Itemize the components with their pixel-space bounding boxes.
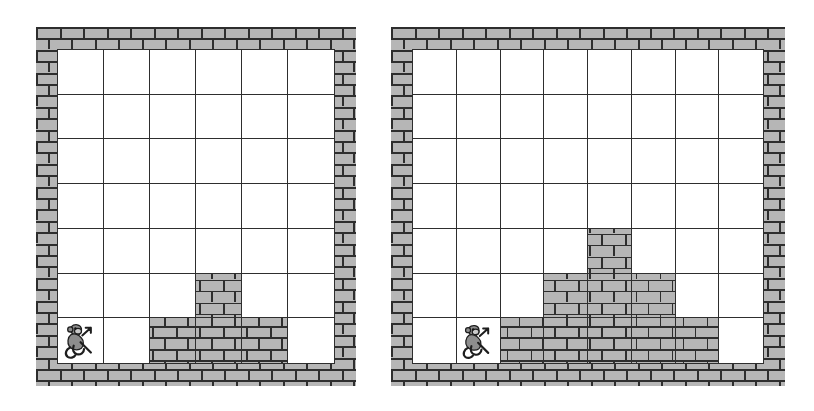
grid-cell-empty[interactable] <box>413 318 457 363</box>
grid-cell-empty[interactable] <box>632 229 676 274</box>
grid-cell-empty[interactable] <box>457 139 501 184</box>
grid-cell-brick[interactable] <box>150 318 196 363</box>
grid-cell-empty[interactable] <box>288 50 334 95</box>
grid-cell-empty[interactable] <box>58 274 104 319</box>
grid-cell-empty[interactable] <box>501 95 545 140</box>
grid-cell-empty[interactable] <box>501 139 545 184</box>
grid-cell-empty[interactable] <box>457 184 501 229</box>
grid-cell-empty[interactable] <box>288 229 334 274</box>
grid-cell-empty[interactable] <box>150 184 196 229</box>
grid-cell-empty[interactable] <box>58 229 104 274</box>
grid-cell-brick[interactable] <box>501 318 545 363</box>
grid-cell-empty[interactable] <box>196 50 242 95</box>
grid-cell-empty[interactable] <box>242 274 288 319</box>
grid-cell-empty[interactable] <box>632 95 676 140</box>
grid-cell-empty[interactable] <box>150 50 196 95</box>
grid-cell-empty[interactable] <box>544 184 588 229</box>
left-grid-world[interactable] <box>36 27 356 386</box>
grid-cell-empty[interactable] <box>242 184 288 229</box>
grid-cell-empty[interactable] <box>104 274 150 319</box>
grid-area[interactable] <box>58 50 334 363</box>
grid-cell-empty[interactable] <box>413 184 457 229</box>
grid-cell-empty[interactable] <box>58 139 104 184</box>
grid-cell-empty[interactable] <box>676 50 720 95</box>
grid-cell-empty[interactable] <box>719 50 763 95</box>
grid-cell-empty[interactable] <box>288 274 334 319</box>
grid-cell-empty[interactable] <box>457 229 501 274</box>
grid-cell-empty[interactable] <box>501 184 545 229</box>
grid-cell-empty[interactable] <box>196 95 242 140</box>
grid-cell-agent[interactable] <box>58 318 104 363</box>
grid-cell-empty[interactable] <box>501 50 545 95</box>
grid-cell-empty[interactable] <box>413 50 457 95</box>
grid-cell-empty[interactable] <box>150 274 196 319</box>
grid-cell-empty[interactable] <box>632 139 676 184</box>
grid-cell-empty[interactable] <box>544 139 588 184</box>
grid-cell-empty[interactable] <box>104 50 150 95</box>
grid-cell-empty[interactable] <box>676 95 720 140</box>
grid-cell-empty[interactable] <box>288 95 334 140</box>
grid-cell-empty[interactable] <box>196 229 242 274</box>
grid-cell-empty[interactable] <box>719 95 763 140</box>
grid-cell-brick[interactable] <box>196 274 242 319</box>
grid-cell-empty[interactable] <box>719 274 763 319</box>
grid-cell-empty[interactable] <box>242 139 288 184</box>
grid-cell-empty[interactable] <box>104 95 150 140</box>
grid-cell-empty[interactable] <box>196 184 242 229</box>
grid-cell-empty[interactable] <box>242 95 288 140</box>
grid-cell-empty[interactable] <box>588 139 632 184</box>
grid-cell-empty[interactable] <box>632 184 676 229</box>
grid-cell-empty[interactable] <box>58 184 104 229</box>
grid-cell-brick[interactable] <box>588 229 632 274</box>
grid-cell-empty[interactable] <box>288 184 334 229</box>
grid-cell-empty[interactable] <box>544 95 588 140</box>
grid-cell-empty[interactable] <box>501 229 545 274</box>
grid-cell-empty[interactable] <box>413 95 457 140</box>
grid-cell-empty[interactable] <box>719 139 763 184</box>
grid-area[interactable] <box>413 50 763 363</box>
grid-cell-empty[interactable] <box>588 95 632 140</box>
grid-cell-empty[interactable] <box>588 50 632 95</box>
grid-cell-empty[interactable] <box>242 229 288 274</box>
grid-cell-empty[interactable] <box>242 50 288 95</box>
grid-cell-empty[interactable] <box>104 139 150 184</box>
grid-cell-empty[interactable] <box>150 139 196 184</box>
grid-cell-empty[interactable] <box>632 50 676 95</box>
grid-cell-empty[interactable] <box>719 184 763 229</box>
grid-cell-brick[interactable] <box>632 274 676 319</box>
grid-cell-empty[interactable] <box>288 318 334 363</box>
grid-cell-empty[interactable] <box>104 184 150 229</box>
grid-cell-empty[interactable] <box>196 139 242 184</box>
grid-cell-empty[interactable] <box>676 139 720 184</box>
grid-cell-empty[interactable] <box>104 318 150 363</box>
grid-cell-empty[interactable] <box>150 229 196 274</box>
grid-cell-brick[interactable] <box>676 318 720 363</box>
grid-cell-empty[interactable] <box>104 229 150 274</box>
grid-cell-empty[interactable] <box>413 274 457 319</box>
grid-cell-empty[interactable] <box>413 139 457 184</box>
grid-cell-empty[interactable] <box>413 229 457 274</box>
grid-cell-brick[interactable] <box>544 318 588 363</box>
grid-cell-empty[interactable] <box>544 50 588 95</box>
grid-cell-brick[interactable] <box>544 274 588 319</box>
grid-cell-empty[interactable] <box>501 274 545 319</box>
agent-monkey[interactable] <box>457 318 500 363</box>
grid-cell-empty[interactable] <box>544 229 588 274</box>
grid-cell-brick[interactable] <box>632 318 676 363</box>
grid-cell-brick[interactable] <box>242 318 288 363</box>
grid-cell-empty[interactable] <box>588 184 632 229</box>
grid-cell-agent[interactable] <box>457 318 501 363</box>
grid-cell-brick[interactable] <box>196 318 242 363</box>
grid-cell-empty[interactable] <box>719 229 763 274</box>
grid-cell-empty[interactable] <box>676 274 720 319</box>
grid-cell-empty[interactable] <box>457 50 501 95</box>
grid-cell-empty[interactable] <box>719 318 763 363</box>
grid-cell-brick[interactable] <box>588 274 632 319</box>
grid-cell-brick[interactable] <box>588 318 632 363</box>
grid-cell-empty[interactable] <box>676 229 720 274</box>
grid-cell-empty[interactable] <box>58 50 104 95</box>
grid-cell-empty[interactable] <box>288 139 334 184</box>
grid-cell-empty[interactable] <box>150 95 196 140</box>
grid-cell-empty[interactable] <box>676 184 720 229</box>
agent-monkey[interactable] <box>58 318 103 363</box>
